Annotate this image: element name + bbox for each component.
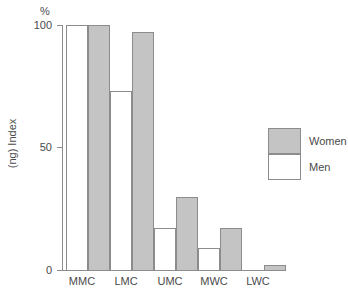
bar-mwc-women bbox=[220, 228, 242, 271]
legend-swatch-women bbox=[268, 128, 301, 154]
bar-mmc-women bbox=[88, 25, 110, 271]
legend bbox=[268, 128, 301, 181]
legend-swatch-men bbox=[268, 154, 301, 180]
x-category-label-mmc: MMC bbox=[57, 276, 107, 287]
bar-mwc-men bbox=[198, 248, 220, 271]
bar-chart: % (ng) Index 100 50 0 MMC LMC UMC MWC LW… bbox=[0, 0, 348, 301]
legend-label-women: Women bbox=[309, 136, 347, 147]
bar-umc-women bbox=[176, 197, 198, 272]
y-tick-label-50: 50 bbox=[22, 142, 52, 153]
legend-label-men: Men bbox=[309, 162, 330, 173]
x-category-label-umc: UMC bbox=[145, 276, 195, 287]
y-tick-label-100: 100 bbox=[22, 20, 52, 31]
y-axis-title: (ng) Index bbox=[7, 104, 18, 184]
x-category-label-lmc: LMC bbox=[101, 276, 151, 287]
y-tick-mark-0 bbox=[57, 270, 62, 271]
y-axis-unit-label: % bbox=[40, 6, 50, 17]
x-category-label-mwc: MWC bbox=[189, 276, 239, 287]
y-axis-line bbox=[62, 25, 63, 271]
bar-lwc-women bbox=[264, 265, 286, 271]
y-tick-mark-50 bbox=[57, 147, 62, 148]
bar-lmc-women bbox=[132, 32, 154, 271]
bar-lmc-men bbox=[110, 91, 132, 271]
bar-umc-men bbox=[154, 228, 176, 271]
y-tick-mark-100 bbox=[57, 25, 62, 26]
bar-mmc-men bbox=[66, 25, 88, 271]
x-category-label-lwc: LWC bbox=[233, 276, 283, 287]
y-tick-label-0: 0 bbox=[22, 265, 52, 276]
